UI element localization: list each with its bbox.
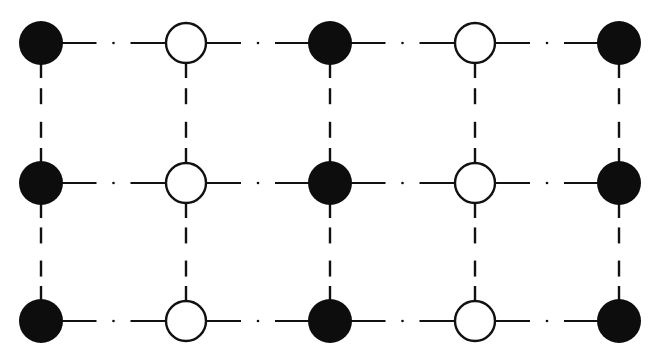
filled-site-icon <box>597 161 641 205</box>
lattice-diagram <box>0 0 659 353</box>
bond-dot <box>546 42 549 45</box>
bond-dot <box>112 320 115 323</box>
open-site-icon <box>455 23 495 63</box>
open-site-icon <box>166 23 206 63</box>
filled-site-icon <box>308 161 352 205</box>
open-site-icon <box>166 163 206 203</box>
open-site-icon <box>166 301 206 341</box>
bond-dot <box>112 42 115 45</box>
filled-site-icon <box>597 21 641 65</box>
bond-dot <box>546 320 549 323</box>
filled-site-icon <box>308 21 352 65</box>
filled-site-icon <box>19 21 63 65</box>
filled-site-icon <box>19 161 63 205</box>
bond-dot <box>112 182 115 185</box>
bond-dot <box>257 320 260 323</box>
bond-dot <box>401 182 404 185</box>
filled-site-icon <box>597 299 641 343</box>
open-site-icon <box>455 163 495 203</box>
open-site-icon <box>455 301 495 341</box>
filled-site-icon <box>308 299 352 343</box>
bond-dot <box>257 42 260 45</box>
bond-dot <box>401 42 404 45</box>
filled-site-icon <box>19 299 63 343</box>
bond-dot <box>401 320 404 323</box>
bond-dot <box>546 182 549 185</box>
bond-dot <box>257 182 260 185</box>
